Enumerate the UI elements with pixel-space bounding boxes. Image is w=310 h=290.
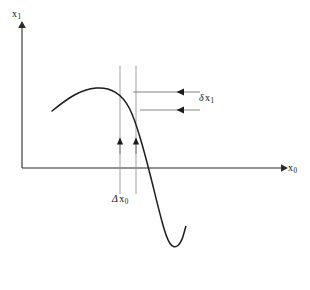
- x-axis-label: x0: [288, 163, 297, 173]
- input-perturbation-subscript: 0: [125, 198, 129, 206]
- input-guide-lines-group: [120, 66, 136, 194]
- y-axis-label: x1: [12, 9, 21, 19]
- diagram-canvas: [0, 0, 310, 290]
- response-curve: [52, 88, 186, 247]
- output-perturbation-subscript: 1: [211, 97, 215, 105]
- y-axis-label-subscript: 1: [18, 13, 22, 21]
- output-perturbation-base: x: [205, 92, 210, 103]
- x-axis-label-symbol: x: [288, 162, 293, 173]
- x-axis-arrowhead-icon: [281, 164, 288, 172]
- x-axis-label-subscript: 0: [294, 167, 298, 175]
- figure-container: x1 x0 δx1 Δx0: [0, 0, 310, 290]
- input-arrowhead-right-icon: [133, 138, 139, 145]
- output-arrowhead-upper-icon: [177, 89, 185, 96]
- input-perturbation-label: Δx0: [112, 194, 128, 204]
- output-arrowhead-lower-icon: [177, 107, 185, 114]
- input-perturbation-base: x: [119, 193, 124, 204]
- y-axis-arrowhead-icon: [18, 21, 26, 28]
- input-arrowhead-left-icon: [117, 138, 123, 145]
- output-perturbation-arrows-group: [133, 89, 200, 114]
- input-perturbation-arrows-group: [117, 138, 139, 155]
- output-perturbation-label: δx1: [199, 93, 214, 103]
- y-axis-label-symbol: x: [12, 8, 17, 19]
- axes-group: [18, 21, 288, 172]
